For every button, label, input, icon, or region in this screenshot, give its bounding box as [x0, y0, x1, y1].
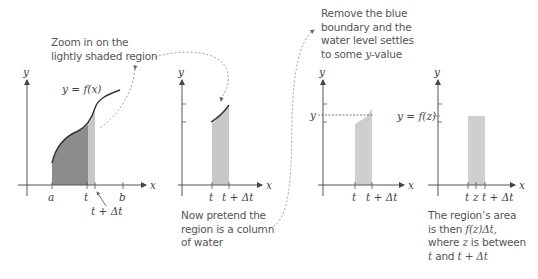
- tick-label-b: b: [119, 191, 126, 203]
- x-axis-label: x: [519, 179, 525, 191]
- tick-label-t-plus-dt: t + Δt: [366, 191, 398, 203]
- tick-label-a: a: [48, 191, 54, 203]
- y-axis-label: y: [177, 66, 185, 78]
- panel-4-graph: y x y = f(z) t z t + Δt: [396, 66, 525, 203]
- zoom-dashed-link: [100, 69, 135, 128]
- dark-shaded-region: [52, 124, 88, 185]
- y-axis-label: y: [22, 66, 30, 78]
- tick-label-t: t: [84, 191, 89, 203]
- caption-zoom: Zoom in on the lightly shaded region: [51, 36, 157, 63]
- panel-3-graph: y x y t t + Δt: [309, 66, 414, 203]
- panel-2-graph: y x t t + Δt: [177, 66, 272, 203]
- tick-label-t-plus-dt: t + Δt: [482, 191, 514, 203]
- y-axis-label: y: [318, 66, 326, 78]
- tick-label-t: t: [352, 191, 357, 203]
- tick-label-t-plus-dt: t + Δt: [91, 205, 123, 217]
- light-shaded-strip: [88, 108, 95, 185]
- caption-remove-boundary: Remove the blue boundary and the water l…: [321, 7, 414, 61]
- tick-label-t: t: [465, 191, 470, 203]
- zoom-dashed-arrow: [155, 52, 228, 101]
- tick-label-t: t: [209, 191, 214, 203]
- level-label: y = f(z): [396, 110, 436, 122]
- zoomed-strip: [212, 105, 229, 185]
- x-axis-label: x: [408, 179, 414, 191]
- t-plus-dt-pointer: [97, 192, 106, 206]
- level-label: y: [309, 109, 317, 121]
- tick-label-z: z: [472, 191, 479, 203]
- x-axis-label: x: [150, 179, 156, 191]
- x-axis-label: x: [266, 179, 272, 191]
- curve-label: y = f(x): [61, 83, 101, 95]
- caption-water-column: Now pretend the region is a column of wa…: [181, 209, 274, 250]
- area-rectangle: [468, 116, 485, 185]
- panel-1-graph: y x y = f(x) a t b t + Δt: [18, 66, 156, 217]
- y-axis-label: y: [433, 66, 441, 78]
- water-dashed-arrow: [270, 30, 314, 228]
- caption-region-area: The region’s area is then f(z)Δt, where …: [428, 209, 526, 263]
- water-column: [355, 109, 372, 185]
- tick-label-t-plus-dt: t + Δt: [222, 191, 254, 203]
